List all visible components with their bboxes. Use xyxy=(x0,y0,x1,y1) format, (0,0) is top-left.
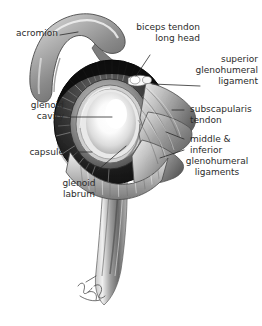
label-glenoid-cavity: glenoid cavity xyxy=(8,100,64,122)
label-glenoid-labrum: glenoid labrum xyxy=(48,178,110,200)
label-inferior-ligament-line2: inferior xyxy=(190,145,260,156)
label-subscapularis-tendon: subscapularis tendon xyxy=(190,104,260,126)
label-biceps-tendon-long-head: biceps tendon long head xyxy=(128,22,200,44)
label-capsule: capsule xyxy=(8,147,64,158)
glenoid-cavity-surface xyxy=(86,92,136,154)
label-middle-ligament-line1: middle & xyxy=(190,134,260,145)
label-glenohumeral-ligaments-line3: glenohumeral ligaments xyxy=(174,156,260,178)
label-acromion: acromion xyxy=(6,28,58,39)
label-superior-glenohumeral-ligament: superior glenohumeral ligament xyxy=(186,54,258,87)
anatomy-figure: acromion biceps tendon long head superio… xyxy=(0,0,262,326)
